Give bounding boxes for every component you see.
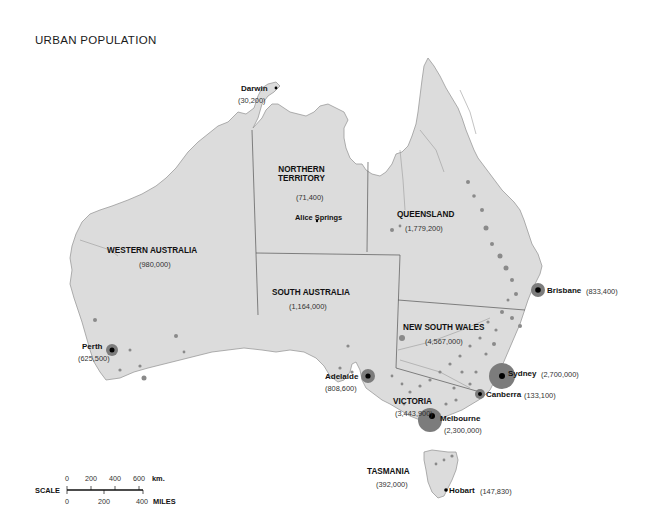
region-label-western-australia: WESTERN AUSTRALIA (107, 246, 197, 255)
region-label-tasmania: TASMANIA (367, 467, 410, 476)
city-population-melbourne: (2,300,000) (444, 426, 482, 435)
region-population-south-australia: (1,164,000) (289, 302, 327, 311)
region-population-queensland: (1,779,200) (405, 224, 443, 233)
city-population-hobart: (147,830) (480, 487, 512, 496)
scale-km-tick-0: 0 (65, 474, 69, 483)
city-label-canberra: Canberra (486, 390, 521, 399)
region-population-tasmania: (392,000) (376, 480, 408, 489)
region-population-western-australia: (980,000) (139, 260, 171, 269)
city-population-perth: (625,500) (78, 354, 110, 363)
region-label-queensland: QUEENSLAND (397, 210, 454, 219)
region-population-victoria: (3,443,900) (395, 409, 433, 418)
scale-bar (67, 486, 143, 494)
australia-map (0, 0, 646, 532)
region-name-line1: NORTHERN (278, 165, 325, 174)
region-label-victoria: VICTORIA (393, 397, 432, 406)
city-label-melbourne: Melbourne (440, 414, 480, 423)
region-label-south-australia: SOUTH AUSTRALIA (272, 288, 350, 297)
city-population-adelaide: (808,600) (325, 384, 357, 393)
scale-km-tick-400: 400 (109, 474, 121, 483)
scale-label: SCALE (35, 486, 60, 495)
region-name-line2: TERRITORY (278, 174, 325, 183)
region-population-northern-territory: (71,400) (296, 193, 324, 202)
scale-miles-unit: MILES (153, 497, 176, 506)
city-label-sydney: Sydney (508, 369, 536, 378)
city-population-canberra: (133,100) (524, 391, 556, 400)
scale-miles-tick-200: 200 (98, 497, 110, 506)
city-label-brisbane: Brisbane (547, 286, 581, 295)
city-label-alice-springs: Alice Springs (295, 213, 342, 222)
map-title: URBAN POPULATION (35, 34, 157, 46)
scale-miles-tick-400: 400 (136, 497, 148, 506)
scale-km-tick-600: 600 (133, 474, 145, 483)
city-population-darwin: (30,200) (238, 96, 266, 105)
city-population-brisbane: (833,400) (586, 287, 618, 296)
region-label-new-south-wales: NEW SOUTH WALES (403, 323, 484, 332)
city-label-perth: Perth (82, 342, 102, 351)
region-population-new-south-wales: (4,567,000) (425, 337, 463, 346)
scale-km-unit: km. (152, 474, 165, 483)
city-label-adelaide: Adelaide (325, 372, 358, 381)
region-label-northern-territory: NORTHERN TERRITORY (278, 165, 325, 184)
city-label-darwin: Darwin (241, 84, 268, 93)
scale-miles-tick-0: 0 (65, 497, 69, 506)
city-label-hobart: Hobart (449, 486, 475, 495)
scale-km-tick-200: 200 (85, 474, 97, 483)
city-population-sydney: (2,700,000) (541, 370, 579, 379)
